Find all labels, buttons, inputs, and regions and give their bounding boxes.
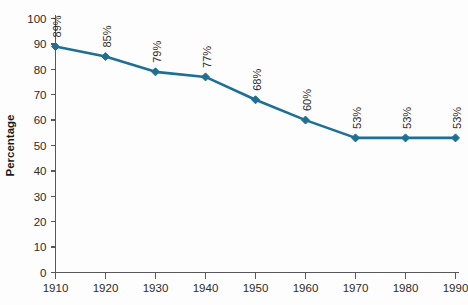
data-point-label: 79% <box>151 41 163 63</box>
data-point-marker <box>452 134 460 142</box>
data-point-label: 53% <box>401 107 413 129</box>
y-axis-tick-label: 80 <box>34 64 47 76</box>
y-axis-tick-label: 100 <box>27 13 46 25</box>
y-axis-tick-label: 30 <box>34 191 47 203</box>
data-point-marker <box>352 134 360 142</box>
data-point-label: 77% <box>201 46 213 68</box>
x-axis: 191019201930194019501960197019801990 <box>43 273 468 294</box>
data-point-marker <box>202 73 210 81</box>
x-axis-tick-label: 1940 <box>193 282 219 294</box>
y-axis-tick-label: 0 <box>40 267 46 279</box>
data-point-marker <box>302 116 310 124</box>
x-axis-tick-label: 1950 <box>243 282 269 294</box>
y-axis-tick-label: 60 <box>34 114 47 126</box>
data-point-labels: 89%85%79%77%68%60%53%53%53% <box>51 15 463 129</box>
data-point-marker <box>252 96 260 104</box>
y-axis-title: Percentage <box>4 114 16 176</box>
data-point-marker <box>102 53 110 61</box>
x-axis-tick-label: 1990 <box>443 282 468 294</box>
data-point-marker <box>402 134 410 142</box>
axis-titles: Percentage <box>4 114 16 176</box>
x-axis-tick-label: 1960 <box>293 282 319 294</box>
data-point-label: 60% <box>301 89 313 111</box>
data-point-label: 89% <box>51 15 63 37</box>
x-axis-tick-label: 1970 <box>343 282 369 294</box>
y-axis-tick-label: 90 <box>34 38 47 50</box>
y-axis-tick-label: 40 <box>34 165 47 177</box>
data-series <box>56 46 456 137</box>
y-axis-tick-label: 50 <box>34 140 47 152</box>
x-axis-tick-label: 1980 <box>393 282 419 294</box>
data-point-label: 85% <box>101 25 113 47</box>
line-chart: 0102030405060708090100 19101920193019401… <box>0 0 468 305</box>
data-point-markers <box>52 42 460 141</box>
y-axis: 0102030405060708090100 <box>27 13 55 279</box>
x-axis-tick-label: 1910 <box>43 282 69 294</box>
data-point-marker <box>152 68 160 76</box>
series-line-percentage <box>56 46 456 137</box>
data-point-label: 68% <box>251 69 263 91</box>
y-axis-tick-label: 70 <box>34 89 47 101</box>
chart-container: 0102030405060708090100 19101920193019401… <box>0 0 468 305</box>
x-axis-tick-label: 1920 <box>93 282 119 294</box>
data-point-label: 53% <box>451 107 463 129</box>
data-point-label: 53% <box>351 107 363 129</box>
y-axis-tick-label: 20 <box>34 216 47 228</box>
x-axis-tick-label: 1930 <box>143 282 169 294</box>
y-axis-tick-label: 10 <box>34 241 47 253</box>
